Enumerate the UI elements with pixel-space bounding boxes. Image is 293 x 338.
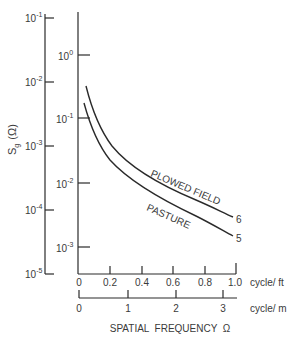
right-tick-label: 10-3 [56,241,73,254]
left-y-tick-labels: 10-1 10-2 10-3 10-4 10-5 [25,11,42,280]
x-m-tick-labels: 0 1 2 3 [76,303,226,314]
right-tick-label: 10-1 [56,112,73,125]
left-tick-label: 10-3 [25,139,42,152]
svg-text:Sg(Ω): Sg(Ω) [6,124,21,155]
right-tick-label: 10-2 [56,177,73,190]
left-tick-label: 10-2 [25,75,42,88]
left-tick-label: 10-5 [25,267,42,280]
svg-text:0.8: 0.8 [198,277,212,288]
svg-text:0.2: 0.2 [103,277,117,288]
right-tick-label: 100 [58,49,73,62]
svg-text:1: 1 [125,303,131,314]
left-y-axis [45,14,54,274]
pasture-end-label: 5 [236,233,242,244]
right-y-axis [78,12,90,274]
svg-text:1.0: 1.0 [228,277,242,288]
left-tick-label: 10-4 [25,203,42,216]
svg-text:2: 2 [173,303,179,314]
plowed-field-label: PLOWED FIELD [149,168,222,207]
x-axis-cycle-m [79,290,237,298]
svg-text:3: 3 [220,303,226,314]
x-axis-cycle-ft [78,263,236,274]
x-axis-title: SPATIAL FREQUENCY Ω [110,323,231,334]
x-ft-unit: cycle/ ft [250,277,284,288]
svg-text:0: 0 [76,277,82,288]
y-axis-title: Sg(Ω) [6,124,21,155]
plowed-field-end-label: 6 [236,214,242,225]
right-y-tick-labels: 100 10-1 10-2 10-3 [56,49,73,254]
svg-text:0.4: 0.4 [135,277,149,288]
svg-text:0.6: 0.6 [166,277,180,288]
x-ft-tick-labels: 0 0.2 0.4 0.6 0.8 1.0 [76,277,242,288]
svg-text:0: 0 [76,303,82,314]
left-tick-label: 10-1 [25,11,42,24]
x-m-unit: cycle/ m [250,303,287,314]
spectral-density-chart: 10-1 10-2 10-3 10-4 10-5 Sg(Ω) 100 10-1 … [0,0,293,338]
pasture-label: PASTURE [145,202,192,231]
